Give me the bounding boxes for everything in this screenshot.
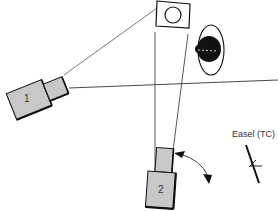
easel-label: Easel (TC) <box>232 129 275 139</box>
easel-icon <box>246 145 262 183</box>
subject-figure <box>195 25 224 75</box>
sight-line-cam1-top <box>64 8 157 75</box>
diagram-canvas: 1 2 Easel (TC) <box>0 0 278 211</box>
sight-line-cam1-bottom <box>69 80 278 88</box>
camera-2-label: 2 <box>158 184 164 195</box>
camera-2 <box>145 147 177 209</box>
rotation-arrow-icon <box>174 151 212 184</box>
camera-1-label: 1 <box>24 93 30 104</box>
camera-1 <box>6 72 70 120</box>
framed-picture <box>156 1 190 28</box>
